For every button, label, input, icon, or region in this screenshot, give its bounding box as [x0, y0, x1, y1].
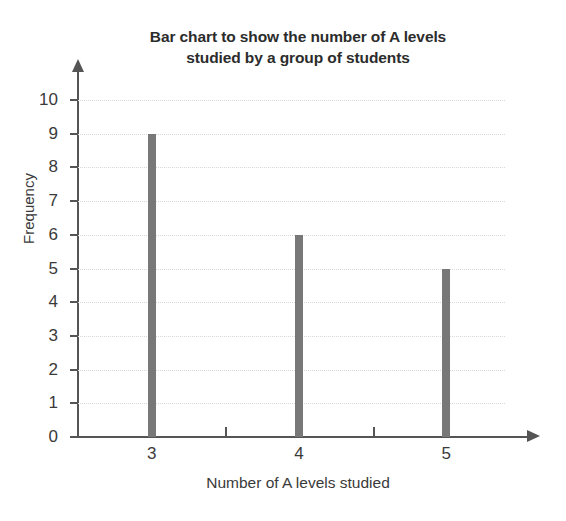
y-axis-tick	[70, 402, 78, 404]
y-axis-tick	[70, 234, 78, 236]
y-axis-tick-label: 3	[18, 327, 58, 344]
y-axis-tick	[70, 301, 78, 303]
y-axis-tick-label: 2	[18, 361, 58, 378]
x-axis-minor-tick	[373, 427, 375, 436]
chart-title-line-1: Bar chart to show the number of A levels	[108, 26, 488, 47]
bar	[148, 134, 156, 437]
x-axis-arrow-icon	[527, 430, 540, 442]
y-axis-title: Frequency	[20, 149, 37, 269]
y-axis-tick-label: 4	[18, 293, 58, 310]
x-axis-minor-tick	[225, 427, 227, 436]
y-axis-tick-label: 10	[18, 91, 58, 108]
y-axis-tick	[70, 200, 78, 202]
x-axis-tick-label: 5	[426, 445, 466, 462]
y-axis-tick	[70, 268, 78, 270]
y-axis-tick	[70, 166, 78, 168]
y-axis-tick-label: 1	[18, 394, 58, 411]
bar	[295, 235, 303, 437]
x-axis-tick-label: 3	[132, 445, 172, 462]
y-axis-tick	[70, 436, 78, 438]
plot-area	[78, 100, 505, 437]
y-axis-tick	[70, 133, 78, 135]
chart-title-line-2: studied by a group of students	[108, 47, 488, 68]
x-axis-tick-label: 4	[279, 445, 319, 462]
bar	[442, 269, 450, 438]
x-axis-title: Number of A levels studied	[78, 474, 518, 492]
y-axis-tick	[70, 369, 78, 371]
y-axis-tick-label: 9	[18, 125, 58, 142]
y-axis-tick-label: 0	[18, 428, 58, 445]
y-axis-tick	[70, 99, 78, 101]
chart-title: Bar chart to show the number of A levels…	[108, 26, 488, 68]
bar-chart-figure: Bar chart to show the number of A levels…	[0, 0, 566, 521]
y-axis-tick	[70, 335, 78, 337]
